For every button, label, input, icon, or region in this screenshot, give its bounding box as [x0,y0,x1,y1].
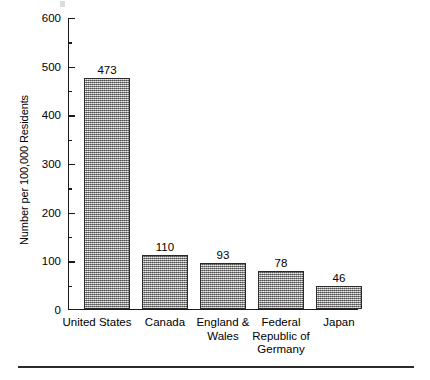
bar-value-united-states: 473 [84,64,130,76]
y-tick-mark-300 [68,164,75,165]
y-tick-mark-50 [68,286,72,287]
y-tick-mark-350 [68,140,72,141]
footer-rule [18,366,414,368]
y-tick-label: 400 [27,110,61,121]
y-tick-mark-250 [68,188,72,189]
y-tick-mark-500 [68,67,75,68]
y-tick-label: 100 [27,256,61,267]
y-axis-tick-labels: 600 500 400 300 200 100 0 [27,0,61,380]
y-tick-mark-150 [68,237,72,238]
y-tick-mark-600 [68,18,75,19]
y-tick-label: 500 [27,62,61,73]
bar-federal-republic-of-germany [258,271,304,309]
y-tick-mark-400 [68,115,75,116]
x-category-label-japan: Japan [299,316,379,330]
bar-value-japan: 46 [316,272,362,284]
bar-value-canada: 110 [142,241,188,253]
x-axis-line [68,309,358,310]
y-tick-mark-450 [68,91,72,92]
bar-japan [316,286,362,308]
y-tick-label: 200 [27,208,61,219]
y-tick-mark-100 [68,261,75,262]
plot-area: 473 110 93 78 46 [68,18,358,310]
y-tick-mark-550 [68,42,72,43]
y-tick-mark-0 [68,309,75,310]
y-tick-mark-200 [68,213,75,214]
y-tick-label: 600 [27,13,61,24]
bar-canada [142,255,188,309]
y-tick-label: 300 [27,159,61,170]
bar-england-wales [200,263,246,308]
bar-value-england-wales: 93 [200,249,246,261]
bar-chart-figure: Number per 100,000 Residents 600 500 400… [0,0,430,380]
bar-united-states [84,78,130,308]
bar-value-federal-republic-of-germany: 78 [258,257,304,269]
y-tick-label: 0 [27,305,61,316]
